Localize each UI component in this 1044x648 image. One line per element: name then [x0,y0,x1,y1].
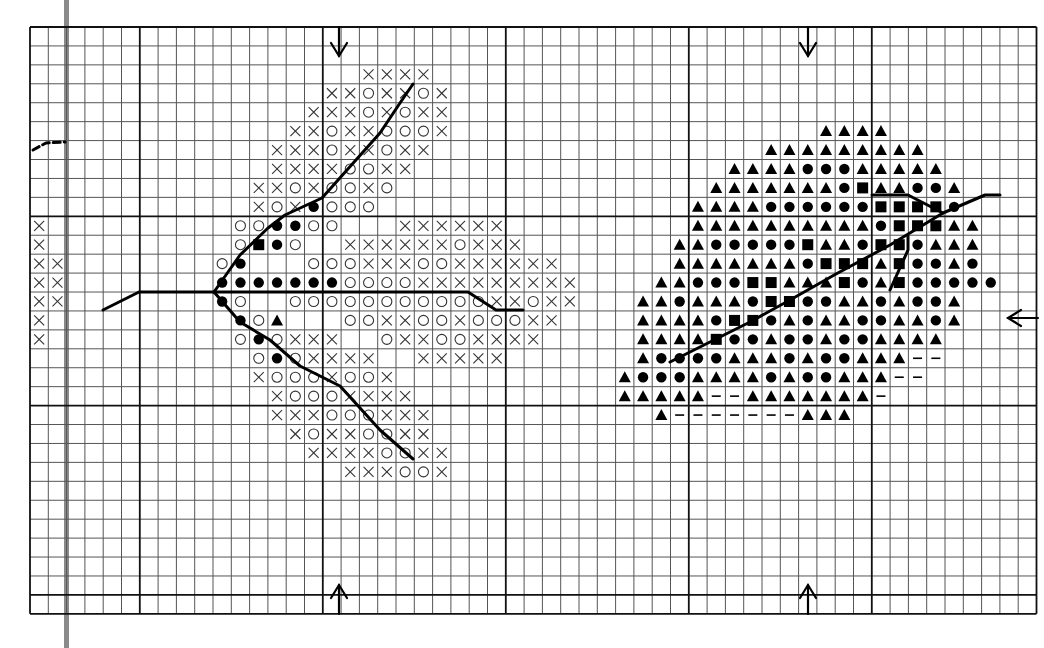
open-circle-symbol [327,391,337,401]
filled-triangle-symbol [765,390,777,401]
cross-symbol [345,88,355,98]
filled-circle-symbol [272,277,282,287]
filled-triangle-symbol [783,371,795,382]
filled-circle-symbol [656,372,666,382]
cross-symbol [254,372,264,382]
filled-circle-symbol [711,239,721,249]
open-circle-symbol [382,278,392,288]
filled-triangle-symbol [838,390,850,401]
open-circle-symbol [510,315,520,325]
filled-triangle-symbol [692,390,704,401]
filled-triangle-symbol [637,390,649,401]
cross-symbol [382,69,392,79]
cross-symbol [473,240,483,250]
open-circle-symbol [235,221,245,231]
filled-circle-symbol [912,277,922,287]
cross-symbol [345,145,355,155]
filled-circle-symbol [254,277,264,287]
top-arrow-right-icon [800,27,816,56]
cross-symbol [327,107,337,117]
filled-circle-symbol [912,296,922,306]
filled-triangle-symbol [838,220,850,231]
cross-symbol [345,107,355,117]
cross-symbol [510,296,520,306]
open-circle-symbol [400,107,410,117]
cross-symbol [492,221,502,231]
open-circle-symbol [217,259,227,269]
cross-symbol [382,315,392,325]
open-circle-symbol [327,410,337,420]
filled-square-symbol [766,296,777,307]
open-circle-symbol [327,221,337,231]
open-circle-symbol [364,315,374,325]
cross-symbol [528,334,538,344]
filled-square-symbol [894,201,905,212]
filled-triangle-symbol [765,220,777,231]
filled-circle-symbol [748,296,758,306]
filled-triangle-symbol [838,371,850,382]
cross-symbol [473,221,483,231]
filled-circle-symbol [803,315,813,325]
cross-symbol [345,448,355,458]
open-circle-symbol [345,202,355,212]
cross-symbol [473,278,483,288]
filled-triangle-symbol [820,390,832,401]
filled-triangle-symbol [783,277,795,288]
cross-symbol [437,467,447,477]
filled-triangle-symbol [692,314,704,325]
filled-circle-symbol [290,277,300,287]
filled-square-symbol [857,182,868,193]
filled-square-symbol [894,220,905,231]
cross-symbol [34,296,44,306]
cross-symbol [492,334,502,344]
filled-triangle-symbol [692,333,704,344]
cross-symbol [382,410,392,420]
open-circle-symbol [309,296,319,306]
filled-circle-symbol [949,277,959,287]
filled-circle-symbol [674,372,684,382]
cross-symbol [290,126,300,136]
filled-circle-symbol [711,315,721,325]
filled-triangle-symbol [966,239,978,250]
filled-triangle-symbol [692,220,704,231]
filled-circle-symbol [693,277,703,287]
cross-symbol [290,410,300,420]
cross-symbol [547,259,557,269]
filled-circle-symbol [821,296,831,306]
cross-symbol [437,353,447,363]
cross-symbol [400,164,410,174]
filled-circle-symbol [674,296,684,306]
open-circle-symbol [418,126,428,136]
cross-symbol [418,353,428,363]
open-circle-symbol [345,315,355,325]
open-circle-symbol [418,259,428,269]
cross-symbol [309,126,319,136]
open-circle-symbol [254,353,264,363]
cross-symbol [418,145,428,155]
open-circle-symbol [400,126,410,136]
filled-triangle-symbol [655,409,667,420]
filled-circle-symbol [656,353,666,363]
filled-triangle-symbol [674,390,686,401]
filled-triangle-symbol [838,409,850,420]
cross-symbol [418,334,428,344]
cross-symbol [400,410,410,420]
filled-circle-symbol [803,202,813,212]
open-circle-symbol [437,259,447,269]
filled-triangle-symbol [802,220,814,231]
cross-symbol [272,183,282,193]
open-circle-symbol [327,126,337,136]
filled-circle-symbol [748,239,758,249]
filled-square-symbol [821,258,832,269]
open-circle-symbol [345,296,355,306]
filled-circle-symbol [803,296,813,306]
open-circle-symbol [437,315,447,325]
filled-square-symbol [729,315,740,326]
cross-symbol [400,334,410,344]
cross-symbol [272,391,282,401]
cross-symbol [492,353,502,363]
filled-triangle-symbol [912,314,924,325]
open-circle-symbol [382,145,392,155]
filled-triangle-symbol [820,125,832,136]
cross-symbol [34,334,44,344]
